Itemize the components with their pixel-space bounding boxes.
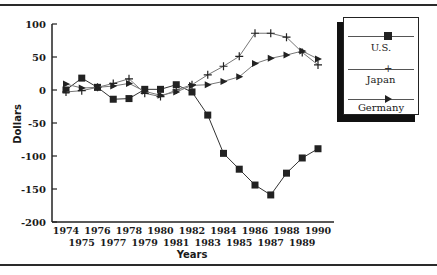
- legend-line-us: [348, 36, 414, 37]
- x-tick-label: 1990: [305, 225, 332, 236]
- x-tick-label: 1975: [69, 237, 95, 248]
- x-tick-label: 1988: [273, 225, 300, 236]
- series-us: [63, 75, 322, 199]
- x-tick-label: 1976: [84, 225, 111, 236]
- x-tick-label: 1974: [53, 225, 80, 236]
- y-tick-label: -50: [28, 118, 46, 129]
- triangle-marker-icon: [268, 55, 275, 62]
- plus-marker-icon: +: [384, 64, 392, 74]
- legend-label-germany: Germany: [344, 102, 418, 113]
- y-tick-label: 0: [39, 85, 46, 96]
- square-marker-icon: [315, 145, 322, 152]
- square-marker-icon: [204, 112, 211, 119]
- legend-line-japan: [348, 69, 414, 70]
- triangle-marker-icon: [221, 78, 228, 85]
- x-tick-label: 1979: [132, 237, 159, 248]
- x-tick-label: 1987: [258, 237, 284, 248]
- plus-marker-icon: [235, 52, 243, 60]
- square-marker-icon: [384, 32, 392, 40]
- legend-line-germany: [348, 99, 414, 100]
- square-marker-icon: [299, 154, 306, 161]
- x-tick-label: 1981: [163, 237, 189, 248]
- y-axis-label: Dollars: [12, 104, 23, 144]
- square-marker-icon: [126, 95, 133, 102]
- plus-marker-icon: [204, 71, 212, 79]
- x-axis-label: Years: [176, 249, 208, 260]
- x-tick-label: 1986: [242, 225, 269, 236]
- square-marker-icon: [236, 166, 243, 173]
- x-tick-label: 1985: [226, 237, 252, 248]
- x-tick-label: 1977: [100, 237, 126, 248]
- axes: 100500-50-100-150-2001974197619781980198…: [21, 19, 334, 249]
- series-group: [62, 29, 322, 198]
- x-tick-label: 1984: [210, 225, 237, 236]
- plus-marker-icon: [267, 29, 275, 37]
- square-marker-icon: [220, 150, 227, 157]
- series-line: [66, 78, 318, 195]
- y-tick-label: -200: [21, 217, 46, 228]
- triangle-marker-icon: [252, 60, 259, 67]
- x-tick-label: 1980: [147, 225, 174, 236]
- square-marker-icon: [267, 191, 274, 198]
- y-tick-label: 100: [25, 19, 46, 30]
- square-marker-icon: [110, 96, 117, 103]
- triangle-marker-icon: [284, 52, 291, 59]
- square-marker-icon: [189, 88, 196, 95]
- square-marker-icon: [157, 86, 164, 93]
- square-marker-icon: [78, 75, 85, 82]
- plus-marker-icon: [220, 62, 228, 70]
- legend-label-japan: Japan: [344, 74, 418, 85]
- y-tick-label: 50: [32, 52, 46, 63]
- y-tick-label: -100: [21, 151, 46, 162]
- y-tick-label: -150: [21, 184, 46, 195]
- x-tick-label: 1978: [116, 225, 143, 236]
- plus-marker-icon: [251, 29, 259, 37]
- triangle-marker-icon: [205, 81, 212, 88]
- x-tick-label: 1982: [179, 225, 205, 236]
- x-tick-label: 1983: [195, 237, 221, 248]
- square-marker-icon: [283, 170, 290, 177]
- legend-label-us: U.S.: [344, 42, 418, 53]
- legend: U.S. + Japan Germany: [343, 17, 419, 115]
- x-tick-label: 1989: [289, 237, 316, 248]
- square-marker-icon: [252, 182, 259, 189]
